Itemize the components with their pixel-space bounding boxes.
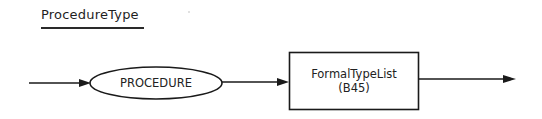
title-underline [41,27,144,29]
connector-arrowhead-icon [277,78,289,86]
exit-arrowhead-icon [503,75,516,83]
syntax-diagram: ProcedureType PROCEDURE FormalTypeList (… [0,0,542,119]
procedure-terminal-label: PROCEDURE [90,76,222,90]
formal-type-list-reference: (B45) [289,81,419,95]
formal-type-list-label: FormalTypeList [289,67,419,81]
diagram-title: ProcedureType [41,7,139,23]
formal-type-list-node: FormalTypeList (B45) [289,67,419,95]
scan-speck [188,11,190,13]
